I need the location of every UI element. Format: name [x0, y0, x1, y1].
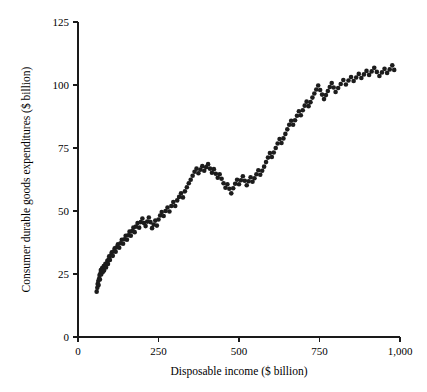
- data-point: [190, 173, 195, 178]
- data-point: [252, 176, 257, 181]
- data-point: [382, 67, 387, 72]
- data-point: [312, 91, 317, 96]
- data-point: [310, 95, 315, 100]
- data-point: [237, 182, 242, 187]
- data-point: [333, 90, 338, 95]
- data-point: [113, 250, 118, 255]
- data-point: [167, 209, 172, 214]
- data-point: [225, 182, 230, 187]
- data-point: [132, 230, 137, 235]
- y-tick-label: 0: [64, 331, 70, 343]
- data-point: [293, 118, 298, 123]
- x-axis-ticks: [78, 337, 400, 342]
- data-point: [297, 109, 302, 114]
- data-point: [254, 172, 259, 177]
- data-point: [271, 150, 276, 155]
- data-point: [129, 233, 134, 238]
- data-point: [326, 89, 331, 94]
- data-point: [275, 141, 280, 146]
- x-axis-tick-labels: 02505007501,000: [75, 345, 413, 357]
- data-point: [268, 151, 273, 156]
- data-point: [206, 162, 211, 167]
- data-point: [194, 166, 199, 171]
- data-point: [200, 164, 205, 169]
- data-point: [285, 127, 290, 132]
- y-tick-label: 75: [58, 142, 70, 154]
- data-point: [329, 81, 334, 86]
- data-point: [212, 167, 217, 172]
- data-point: [208, 166, 213, 171]
- data-point: [262, 164, 267, 169]
- y-tick-label: 100: [53, 79, 70, 91]
- data-point: [161, 214, 166, 219]
- data-point: [299, 113, 304, 118]
- data-point: [108, 258, 113, 263]
- data-point: [291, 123, 296, 128]
- y-axis-ticks: [73, 22, 78, 337]
- data-point: [273, 146, 278, 151]
- data-point: [233, 181, 238, 186]
- data-point: [304, 99, 309, 104]
- data-point: [320, 92, 325, 97]
- data-point: [372, 66, 377, 71]
- data-point: [217, 172, 222, 177]
- data-point: [308, 100, 313, 105]
- data-points: [94, 63, 396, 294]
- data-point: [214, 171, 219, 176]
- data-point: [375, 70, 380, 75]
- y-axis-title: Consumer durable goods expenditures ($ b…: [20, 66, 33, 292]
- y-tick-label: 125: [53, 16, 70, 28]
- data-point: [324, 93, 329, 98]
- x-tick-label: 750: [311, 345, 328, 357]
- data-point: [98, 277, 103, 282]
- data-point: [185, 185, 190, 190]
- x-tick-label: 250: [150, 345, 167, 357]
- data-point: [322, 97, 327, 102]
- data-point: [281, 136, 286, 141]
- y-axis-tick-labels: 0255075100125: [53, 16, 70, 343]
- data-point: [231, 186, 236, 191]
- data-point: [110, 254, 115, 259]
- data-point: [302, 103, 307, 108]
- data-point: [140, 216, 145, 221]
- data-point: [117, 245, 122, 250]
- data-point: [328, 85, 333, 90]
- data-point: [279, 141, 284, 146]
- data-point: [306, 104, 311, 109]
- data-point: [344, 82, 349, 87]
- data-point: [244, 183, 249, 188]
- data-point: [219, 176, 224, 181]
- data-point: [235, 177, 240, 182]
- x-tick-label: 1,000: [388, 345, 413, 357]
- data-point: [181, 195, 186, 200]
- data-point: [246, 179, 251, 184]
- data-point: [243, 178, 248, 183]
- data-point: [106, 262, 111, 267]
- data-point: [256, 168, 261, 173]
- data-point: [264, 160, 269, 165]
- data-point: [258, 172, 263, 177]
- data-point: [125, 237, 130, 242]
- x-tick-label: 0: [75, 345, 81, 357]
- data-point: [156, 217, 161, 222]
- data-point: [349, 75, 354, 80]
- data-point: [314, 87, 319, 92]
- x-tick-label: 500: [231, 345, 248, 357]
- data-point: [188, 177, 193, 182]
- y-tick-label: 25: [58, 268, 70, 280]
- data-point: [336, 86, 341, 91]
- data-point: [270, 155, 275, 160]
- data-point: [295, 113, 300, 118]
- data-point: [356, 72, 361, 77]
- data-point: [248, 175, 253, 180]
- data-point: [155, 223, 160, 228]
- data-point: [159, 210, 164, 215]
- data-point: [300, 108, 305, 113]
- data-point: [221, 181, 226, 186]
- data-point: [341, 78, 346, 83]
- data-point: [364, 69, 369, 74]
- chart-figure: 0255075100125 02505007501,000 Disposable…: [0, 0, 427, 392]
- data-point: [173, 204, 178, 209]
- data-point: [338, 82, 343, 87]
- data-point: [390, 63, 395, 68]
